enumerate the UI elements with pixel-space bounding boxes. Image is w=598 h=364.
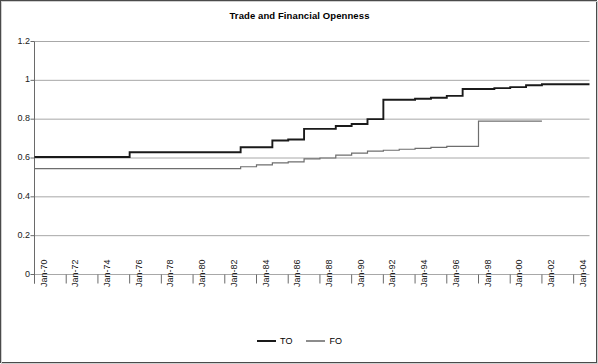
x-tick-label: Jan-70 xyxy=(39,259,49,287)
x-tick-label: Jan-90 xyxy=(356,259,366,287)
x-tick-label: Jan-94 xyxy=(419,259,429,287)
y-tick-label: 0 xyxy=(4,269,30,279)
x-tick-label: Jan-76 xyxy=(134,259,144,287)
x-tick-label: Jan-80 xyxy=(197,259,207,287)
chart-plot-area xyxy=(1,1,598,364)
x-tick-label: Jan-72 xyxy=(70,259,80,287)
x-tick-label: Jan-92 xyxy=(387,259,397,287)
y-tick-label: 1.2 xyxy=(4,36,30,46)
x-tick-label: Jan-74 xyxy=(102,259,112,287)
y-tick-label: 0.6 xyxy=(4,152,30,162)
x-tick-label: Jan-02 xyxy=(546,259,556,287)
y-tick-label: 0.8 xyxy=(4,113,30,123)
x-tick-label: Jan-82 xyxy=(229,259,239,287)
legend-item-to: TO xyxy=(257,335,292,346)
y-axis-ticks xyxy=(31,42,35,275)
x-tick-label: Jan-86 xyxy=(292,259,302,287)
legend-swatch-fo-icon xyxy=(306,340,325,342)
x-tick-label: Jan-96 xyxy=(451,259,461,287)
x-tick-label: Jan-00 xyxy=(514,259,524,287)
legend-swatch-to-icon xyxy=(257,340,276,342)
gridlines xyxy=(35,42,590,275)
y-tick-label: 1 xyxy=(4,74,30,84)
x-tick-label: Jan-84 xyxy=(261,259,271,287)
x-tick-label: Jan-88 xyxy=(324,259,334,287)
data-series-group xyxy=(35,84,590,168)
x-tick-label: Jan-04 xyxy=(578,259,588,287)
x-tick-label: Jan-78 xyxy=(165,259,175,287)
legend-item-fo: FO xyxy=(306,335,342,346)
y-tick-label: 0.4 xyxy=(4,191,30,201)
series-line-fo xyxy=(35,121,542,169)
legend-label: FO xyxy=(329,336,342,346)
x-tick-label: Jan-98 xyxy=(483,259,493,287)
y-tick-label: 0.2 xyxy=(4,230,30,240)
legend-label: TO xyxy=(280,336,292,346)
chart-legend: TOFO xyxy=(1,335,598,346)
